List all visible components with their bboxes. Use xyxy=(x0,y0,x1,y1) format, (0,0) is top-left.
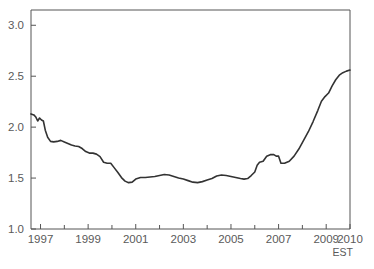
x-tick-label: 2005 xyxy=(218,233,244,245)
x-tick-label: 2001 xyxy=(123,233,149,245)
x-tick-label: 2007 xyxy=(266,233,292,245)
x-tick-label: 1999 xyxy=(75,233,101,245)
x-tick-label: 2009 xyxy=(313,233,339,245)
y-tick-label: 3.0 xyxy=(8,19,24,31)
axis-frame xyxy=(31,10,350,229)
chart-container: 1.01.52.02.53.0 199719992001200320052007… xyxy=(0,0,374,269)
x-axis-ticks xyxy=(41,224,350,229)
axis-annotation-group: EST xyxy=(333,246,354,258)
y-tick-label: 2.5 xyxy=(8,70,24,82)
x-tick-label: 1997 xyxy=(28,233,54,245)
x-axis-tick-labels: 19971999200120032005200720092010 xyxy=(28,233,363,245)
data-series-group xyxy=(31,70,350,183)
x-axis-unit-label: EST xyxy=(333,246,354,258)
y-tick-label: 1.5 xyxy=(8,172,24,184)
series-line xyxy=(31,70,350,183)
x-tick-label: 2010 xyxy=(337,233,363,245)
y-axis-ticks xyxy=(31,25,36,229)
x-tick-label: 2003 xyxy=(171,233,197,245)
plot-frame xyxy=(31,10,350,229)
line-chart: 1.01.52.02.53.0 199719992001200320052007… xyxy=(0,0,374,269)
y-tick-label: 1.0 xyxy=(8,223,24,235)
y-axis-tick-labels: 1.01.52.02.53.0 xyxy=(8,19,24,235)
y-tick-label: 2.0 xyxy=(8,121,24,133)
